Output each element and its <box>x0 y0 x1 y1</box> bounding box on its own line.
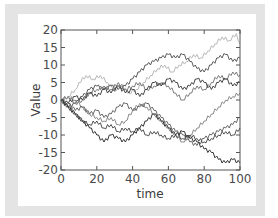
x-tick-label: 40 <box>125 172 140 186</box>
x-tick-label: 20 <box>89 172 104 186</box>
line-chart: 02040608010020151050-5-10-15-20 time Val… <box>0 0 278 218</box>
series-line-walk-2 <box>61 54 240 107</box>
y-tick-label: 10 <box>43 58 58 72</box>
y-tick-label: 0 <box>50 93 58 107</box>
series-line-walk-7 <box>61 100 240 143</box>
x-tick-label: 0 <box>57 172 65 186</box>
y-tick-label: 20 <box>43 23 58 37</box>
y-tick-label: -10 <box>38 128 58 142</box>
x-tick-label: 60 <box>161 172 176 186</box>
x-axis-title: time <box>136 187 163 201</box>
y-tick-label: -20 <box>38 163 58 177</box>
x-tick-label: 100 <box>229 172 252 186</box>
plot-area-border <box>61 30 240 170</box>
x-tick-label: 80 <box>197 172 212 186</box>
y-tick-label: 15 <box>43 41 58 55</box>
series-line-walk-5 <box>61 93 240 142</box>
series-lines <box>61 34 240 164</box>
y-axis-title: Value <box>29 84 43 117</box>
y-tick-label: -5 <box>46 111 58 125</box>
y-tick-label: -15 <box>38 146 58 160</box>
y-tick-label: 5 <box>50 76 58 90</box>
